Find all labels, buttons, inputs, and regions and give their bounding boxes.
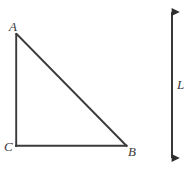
diagram-svg [0,0,188,169]
vertex-label-a: A [9,20,17,33]
geometry-diagram: A C B L [0,0,188,169]
triangle-side-AB [17,34,127,146]
vertex-label-b: B [128,145,136,158]
vertex-label-c: C [4,140,13,153]
measure-label-l: L [177,78,184,91]
